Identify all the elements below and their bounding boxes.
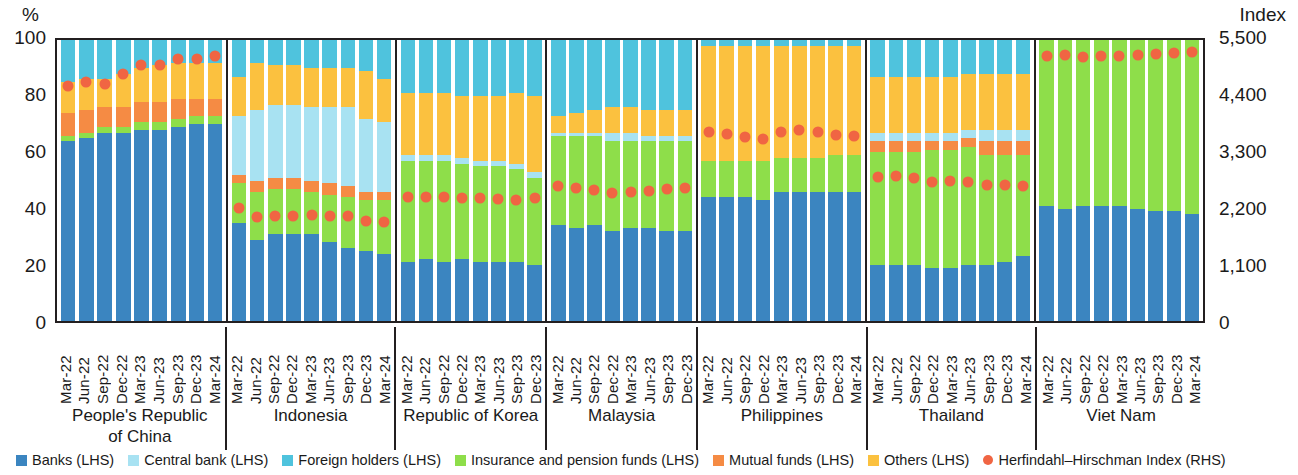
- stacked-bar[interactable]: [641, 40, 656, 321]
- legend-item[interactable]: Insurance and pension funds (LHS): [455, 452, 699, 468]
- stacked-bar[interactable]: [756, 40, 771, 321]
- stacked-bar[interactable]: [569, 40, 584, 321]
- bar-segment: [961, 130, 976, 138]
- x-axis-tick-label: Mar-23: [302, 327, 319, 407]
- stacked-bar[interactable]: [847, 40, 862, 321]
- stacked-bar[interactable]: [810, 40, 825, 321]
- stacked-bar[interactable]: [701, 40, 716, 321]
- stacked-bar[interactable]: [551, 40, 566, 321]
- bar-segment: [232, 223, 247, 321]
- bar-segment: [587, 136, 602, 226]
- bar-segment: [979, 74, 994, 130]
- hhi-marker: [679, 183, 690, 194]
- stacked-bar[interactable]: [419, 40, 434, 321]
- stacked-bar[interactable]: [359, 40, 374, 321]
- stacked-bar[interactable]: [152, 40, 167, 321]
- bar-segment: [208, 63, 223, 100]
- stacked-bar[interactable]: [979, 40, 994, 321]
- stacked-bar[interactable]: [997, 40, 1012, 321]
- stacked-bar[interactable]: [97, 40, 112, 321]
- stacked-bar[interactable]: [322, 40, 337, 321]
- stacked-bar[interactable]: [828, 40, 843, 321]
- stacked-bar[interactable]: [738, 40, 753, 321]
- stacked-bar[interactable]: [377, 40, 392, 321]
- stacked-bar[interactable]: [961, 40, 976, 321]
- stacked-bar[interactable]: [1112, 40, 1127, 321]
- bar-segment: [134, 102, 149, 122]
- bar-segment: [1112, 40, 1127, 206]
- stacked-bar[interactable]: [1016, 40, 1031, 321]
- bar-segment: [268, 234, 283, 321]
- stacked-bar[interactable]: [61, 40, 76, 321]
- bar-segment: [419, 40, 434, 93]
- stacked-bar[interactable]: [134, 40, 149, 321]
- stacked-bar[interactable]: [1039, 40, 1054, 321]
- stacked-bar[interactable]: [208, 40, 223, 321]
- legend-item[interactable]: Herfindahl–Hirschman Index (RHS): [983, 452, 1225, 468]
- stacked-bar[interactable]: [268, 40, 283, 321]
- hhi-marker: [173, 54, 184, 65]
- stacked-bar[interactable]: [401, 40, 416, 321]
- legend-item[interactable]: Central bank (LHS): [128, 452, 268, 468]
- stacked-bar[interactable]: [116, 40, 131, 321]
- stacked-bar[interactable]: [889, 40, 904, 321]
- stacked-bar[interactable]: [250, 40, 265, 321]
- bar-segment: [171, 63, 186, 100]
- stacked-bar[interactable]: [473, 40, 488, 321]
- bar-segment: [907, 77, 922, 133]
- bar-segment: [1130, 209, 1145, 321]
- x-axis-tick-label: Jun-23: [641, 327, 658, 407]
- legend-item[interactable]: Banks (LHS): [16, 452, 114, 468]
- stacked-bar[interactable]: [286, 40, 301, 321]
- stacked-bar[interactable]: [491, 40, 506, 321]
- bar-segment: [1185, 214, 1200, 321]
- stacked-bar[interactable]: [304, 40, 319, 321]
- country-name: People's Republicof China: [72, 406, 208, 447]
- stacked-bar[interactable]: [943, 40, 958, 321]
- right-tick-label: 0: [1219, 313, 1230, 332]
- stacked-bar[interactable]: [527, 40, 542, 321]
- stacked-bar[interactable]: [171, 40, 186, 321]
- bar-segment: [401, 262, 416, 321]
- hhi-marker: [361, 215, 372, 226]
- legend-item[interactable]: Mutual funds (LHS): [713, 452, 854, 468]
- hhi-marker: [421, 192, 432, 203]
- stacked-bar[interactable]: [455, 40, 470, 321]
- bar-segment: [569, 40, 584, 113]
- stacked-bar[interactable]: [1185, 40, 1200, 321]
- stacked-bar[interactable]: [774, 40, 789, 321]
- bar-segment: [232, 77, 247, 116]
- legend-item[interactable]: Others (LHS): [868, 452, 969, 468]
- stacked-bar[interactable]: [437, 40, 452, 321]
- stacked-bar[interactable]: [719, 40, 734, 321]
- stacked-bar[interactable]: [605, 40, 620, 321]
- stacked-bar[interactable]: [1094, 40, 1109, 321]
- bar-segment: [171, 119, 186, 127]
- stacked-bar[interactable]: [79, 40, 94, 321]
- bar-segment: [1039, 206, 1054, 321]
- bar-segment: [774, 158, 789, 192]
- stacked-bar[interactable]: [341, 40, 356, 321]
- x-axis-tick-label: Jun-23: [150, 327, 167, 407]
- stacked-bar[interactable]: [509, 40, 524, 321]
- stacked-bar[interactable]: [587, 40, 602, 321]
- stacked-bar[interactable]: [1130, 40, 1145, 321]
- stacked-bar[interactable]: [659, 40, 674, 321]
- stacked-bar[interactable]: [1076, 40, 1091, 321]
- stacked-bar[interactable]: [678, 40, 693, 321]
- legend-item[interactable]: Foreign holders (LHS): [282, 452, 441, 468]
- bar-segment: [870, 152, 885, 264]
- x-axis-tick-label: Sep-22: [736, 327, 753, 407]
- stacked-bar[interactable]: [925, 40, 940, 321]
- stacked-bar[interactable]: [1167, 40, 1182, 321]
- stacked-bar[interactable]: [1148, 40, 1163, 321]
- stacked-bar[interactable]: [623, 40, 638, 321]
- stacked-bar[interactable]: [907, 40, 922, 321]
- stacked-bar[interactable]: [870, 40, 885, 321]
- x-axis-tick-label: Mar-23: [131, 327, 148, 407]
- bar-segment: [961, 40, 976, 74]
- stacked-bar[interactable]: [1058, 40, 1073, 321]
- stacked-bar[interactable]: [792, 40, 807, 321]
- stacked-bar[interactable]: [189, 40, 204, 321]
- stacked-bar[interactable]: [232, 40, 247, 321]
